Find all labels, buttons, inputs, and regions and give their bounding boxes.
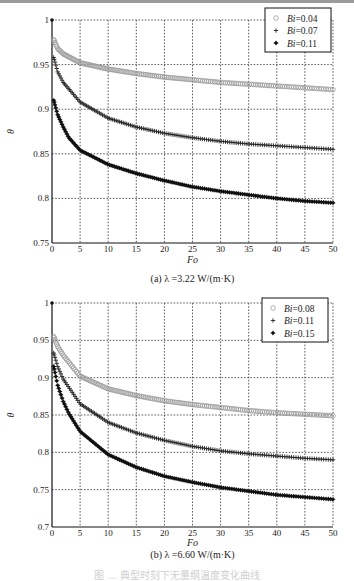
legend-item: Bi=0.15: [284, 329, 315, 339]
x-tick-label: 50: [329, 528, 339, 538]
panel-caption: (b) λ =6.60 W/(m·K): [150, 549, 234, 561]
grid: [52, 20, 333, 243]
x-tick-label: 0: [50, 244, 55, 254]
x-tick-label: 45: [300, 528, 310, 538]
figure-canvas: 051015202530354045500.750.80.850.90.951F…: [0, 0, 354, 581]
x-tick-label: 15: [132, 244, 142, 254]
x-tick-label: 0: [50, 528, 55, 538]
x-tick-label: 30: [216, 244, 226, 254]
y-tick-label: 0.95: [33, 60, 49, 70]
x-tick-label: 5: [78, 528, 83, 538]
y-tick-label: 0.85: [33, 410, 49, 420]
x-axis-label: Fo: [186, 537, 198, 548]
y-tick-label: 0.85: [33, 149, 49, 159]
x-tick-label: 50: [329, 244, 339, 254]
y-tick-label: 0.9: [38, 373, 50, 383]
x-tick-label: 35: [244, 244, 254, 254]
y-tick-label: 0.8: [38, 193, 50, 203]
legend-item: Bi=0.11: [287, 39, 317, 49]
y-tick-label: 0.8: [38, 447, 50, 457]
x-tick-label: 5: [78, 244, 83, 254]
figure-caption: 图 ... 典型时刻下无量纲温度变化曲线: [0, 567, 354, 581]
x-tick-label: 25: [188, 244, 198, 254]
y-tick-label: 0.75: [33, 238, 49, 248]
chart-panel-b: 051015202530354045500.70.750.80.850.90.9…: [5, 298, 338, 561]
x-tick-label: 10: [104, 528, 114, 538]
x-tick-label: 35: [244, 528, 254, 538]
y-tick-label: 0.95: [33, 335, 49, 345]
panel-caption: (a) λ =3.22 W/(m·K): [151, 273, 235, 285]
y-tick-label: 0.7: [38, 522, 50, 532]
chart-panel-a: 051015202530354045500.750.80.850.90.951F…: [5, 8, 338, 285]
legend: Bi=0.08Bi=0.11Bi=0.15: [262, 298, 328, 342]
y-axis-label: θ: [5, 129, 16, 134]
y-tick-label: 0.75: [33, 485, 49, 495]
x-tick-label: 20: [160, 244, 170, 254]
x-tick-label: 40: [272, 244, 282, 254]
legend-item: Bi=0.08: [284, 304, 315, 314]
y-tick-label: 0.9: [38, 104, 50, 114]
x-tick-label: 10: [104, 244, 114, 254]
y-tick-label: 1: [45, 15, 50, 25]
x-tick-label: 15: [132, 528, 142, 538]
legend-item: Bi=0.04: [287, 14, 318, 24]
legend-item: Bi=0.11: [284, 316, 314, 326]
legend-item: Bi=0.07: [287, 26, 318, 36]
legend: Bi=0.04Bi=0.07Bi=0.11: [265, 8, 331, 52]
series-plus: [51, 55, 335, 151]
y-tick-label: 1: [45, 298, 50, 308]
x-tick-label: 30: [216, 528, 226, 538]
x-tick-label: 40: [272, 528, 282, 538]
y-axis-label: θ: [5, 412, 16, 417]
x-axis-label: Fo: [186, 254, 198, 265]
x-tick-label: 45: [300, 244, 310, 254]
series-circle: [51, 334, 335, 418]
x-tick-label: 20: [160, 528, 170, 538]
series-diamond: [51, 98, 335, 205]
